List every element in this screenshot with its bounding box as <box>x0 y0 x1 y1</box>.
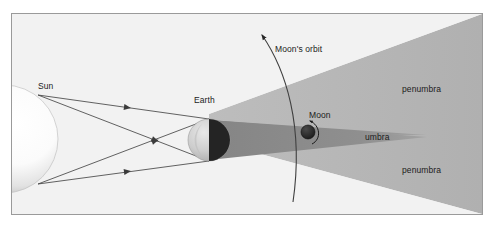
label-umbra: umbra <box>365 133 390 142</box>
moon-body <box>301 125 315 139</box>
label-sun: Sun <box>38 82 53 91</box>
label-moons-orbit: Moon's orbit <box>275 45 322 54</box>
label-penumbra-bottom: penumbra <box>402 166 441 175</box>
label-earth: Earth <box>194 96 215 105</box>
diagram-canvas <box>12 14 482 214</box>
earth-body <box>188 119 230 161</box>
label-penumbra-top: penumbra <box>402 85 441 94</box>
label-moon: Moon <box>309 111 331 120</box>
lunar-eclipse-diagram-screenshot: Sun Earth Moon Moon's orbit umbra penumb… <box>0 0 494 245</box>
diagram-frame: Sun Earth Moon Moon's orbit umbra penumb… <box>11 13 483 215</box>
